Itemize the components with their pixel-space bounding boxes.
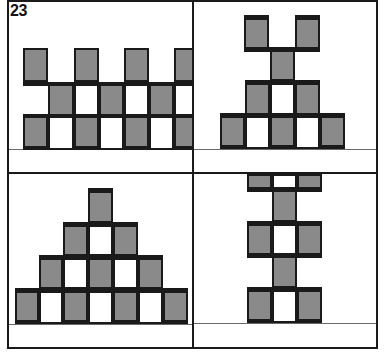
tier-edge-bar	[247, 187, 322, 192]
filled-block	[113, 223, 138, 256]
block-bottom-edge	[15, 320, 39, 324]
tier-edge-bar	[63, 222, 138, 227]
frame-right	[376, 0, 378, 349]
filled-block	[295, 81, 320, 115]
empty-block	[88, 223, 113, 256]
empty-block	[270, 81, 295, 115]
tier-edge-bar	[23, 82, 192, 86]
filled-block	[99, 82, 124, 116]
empty-block	[272, 288, 297, 323]
tier-edge-bar	[88, 188, 113, 193]
empty-block	[149, 116, 174, 150]
filled-block	[15, 289, 39, 324]
panel-baseline	[9, 324, 192, 325]
block-bottom-edge	[124, 146, 149, 150]
tier-edge-bar	[39, 255, 163, 260]
panel-baseline	[194, 149, 376, 150]
empty-block	[88, 289, 113, 324]
puzzle-figure: 23	[0, 0, 384, 355]
empty-block	[113, 256, 138, 289]
block-bottom-edge	[320, 145, 345, 149]
tier-edge-bar	[247, 287, 322, 292]
panel-baseline	[194, 323, 376, 324]
filled-block	[138, 256, 163, 289]
filled-block	[23, 48, 48, 82]
tier-edge-bar	[244, 15, 269, 20]
filled-block	[220, 114, 245, 149]
panel-top-left	[9, 2, 192, 172]
block-bottom-edge	[174, 146, 192, 150]
filled-block	[74, 116, 99, 150]
filled-block	[270, 114, 295, 149]
empty-block	[99, 116, 124, 150]
filled-block	[244, 15, 269, 51]
block-bottom-edge	[220, 145, 245, 149]
panel-bottom-left	[9, 174, 192, 347]
tier-edge-bar	[15, 288, 188, 293]
empty-block	[124, 82, 149, 116]
empty-block	[174, 82, 192, 116]
tier-edge-bar	[245, 80, 320, 85]
filled-block	[124, 48, 149, 82]
filled-block	[174, 116, 192, 150]
filled-block	[163, 289, 188, 324]
tier-edge-bar	[247, 221, 322, 226]
filled-block	[247, 288, 272, 323]
filled-block	[174, 48, 192, 82]
filled-block	[272, 189, 297, 222]
filled-block	[149, 82, 174, 116]
filled-block	[295, 15, 320, 51]
block-bottom-edge	[63, 320, 88, 324]
filled-block	[247, 222, 272, 255]
figure-number-label: 23	[10, 2, 27, 20]
filled-block	[48, 82, 74, 116]
tier-edge-bar	[244, 47, 320, 52]
block-bottom-edge	[297, 319, 322, 323]
block-bottom-edge	[23, 146, 48, 150]
filled-block	[113, 289, 138, 324]
filled-block	[23, 116, 48, 150]
panel-top-right	[194, 2, 376, 172]
block-bottom-edge	[270, 145, 295, 149]
block-bottom-edge	[74, 146, 99, 150]
empty-block	[138, 289, 163, 324]
empty-block	[272, 222, 297, 255]
block-bottom-edge	[163, 320, 188, 324]
empty-block	[295, 114, 320, 149]
filled-block	[297, 222, 322, 255]
tier-edge-bar	[295, 15, 320, 20]
panel-bottom-right	[194, 174, 376, 347]
empty-block	[39, 289, 63, 324]
filled-block	[63, 223, 88, 256]
empty-block	[48, 116, 74, 150]
filled-block	[39, 256, 63, 289]
empty-block	[245, 114, 270, 149]
tier-edge-bar	[220, 113, 345, 118]
block-bottom-edge	[113, 320, 138, 324]
filled-block	[320, 114, 345, 149]
filled-block	[88, 256, 113, 289]
tier-edge-bar	[247, 253, 322, 258]
block-bottom-edge	[247, 319, 272, 323]
filled-block	[245, 81, 270, 115]
filled-block	[74, 48, 99, 82]
filled-block	[272, 255, 297, 288]
filled-block	[88, 188, 113, 223]
empty-block	[74, 82, 99, 116]
filled-block	[63, 289, 88, 324]
tier-edge-bar	[23, 114, 192, 118]
empty-block	[63, 256, 88, 289]
filled-block	[124, 116, 149, 150]
filled-block	[297, 288, 322, 323]
filled-block	[270, 48, 295, 81]
